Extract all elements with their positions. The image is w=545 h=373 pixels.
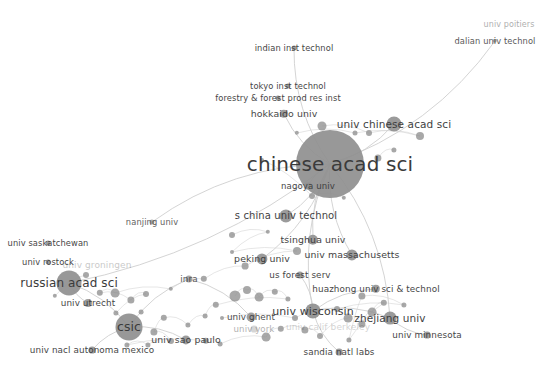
network-node-label[interactable]: univ groningen xyxy=(62,261,131,270)
network-node-label[interactable]: chinese acad sci xyxy=(247,154,413,174)
network-node-label[interactable]: sandia natl labs xyxy=(303,348,374,357)
network-node-label[interactable]: nanjing univ xyxy=(126,218,178,226)
network-node-label[interactable]: univ ghent xyxy=(227,313,275,322)
network-node-label[interactable]: univ poitiers xyxy=(484,21,535,29)
network-node-label[interactable]: univ wisconsin xyxy=(272,306,354,317)
network-node-label[interactable]: hokkaido univ xyxy=(251,109,318,118)
network-node-label[interactable]: univ massachusetts xyxy=(304,250,399,259)
network-node-label[interactable]: indian inst technol xyxy=(255,44,334,52)
network-node-label[interactable]: univ calif berkeley xyxy=(286,323,370,332)
network-node-label[interactable]: univ york xyxy=(234,325,275,334)
network-node-label[interactable]: univ saskatchewan xyxy=(8,239,89,247)
network-node-label[interactable]: us forest serv xyxy=(269,271,330,280)
network-node-label[interactable]: univ minnesota xyxy=(392,331,461,340)
network-node-label[interactable]: univ nacl autonoma mexico xyxy=(30,346,154,355)
network-node-label[interactable]: peking univ xyxy=(234,254,290,263)
network-node-label[interactable]: univ chinese acad sci xyxy=(337,119,451,130)
network-node-label[interactable]: tsinghua univ xyxy=(280,235,345,244)
network-node-label[interactable]: huazhong univ sci & technol xyxy=(312,285,439,294)
network-node-label[interactable]: dalian univ technol xyxy=(454,37,535,45)
network-map-canvas[interactable]: univ poitiersdalian univ technolindian i… xyxy=(0,0,545,373)
network-node-label[interactable]: tokyo inst technol xyxy=(250,82,326,90)
network-node-label[interactable]: univ sao paulo xyxy=(151,335,221,344)
network-node-label[interactable]: nagoya univ xyxy=(281,182,335,191)
network-node-label[interactable]: s china univ technol xyxy=(235,211,337,221)
network-node-label[interactable]: csic xyxy=(117,321,141,334)
network-node-label[interactable]: russian acad sci xyxy=(20,277,118,289)
network-node-label[interactable]: forestry & forest prod res inst xyxy=(215,94,341,102)
network-node-label[interactable]: inra xyxy=(180,275,197,284)
network-node-label[interactable]: univ utrecht xyxy=(61,299,116,308)
label-layer: univ poitiersdalian univ technolindian i… xyxy=(0,0,545,373)
